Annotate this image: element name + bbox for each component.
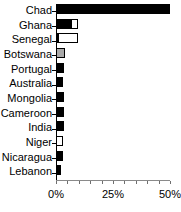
bar-segment: [56, 165, 61, 175]
bar-segment: [56, 136, 63, 146]
category-label-senegal: Senegal: [0, 34, 52, 45]
value-tick: [79, 181, 80, 184]
bar-row: [56, 151, 170, 166]
bar-segment: [56, 121, 64, 131]
value-tick: [170, 181, 171, 184]
value-tick: [159, 181, 160, 184]
category-label-nicaragua: Nicaragua: [0, 152, 52, 163]
bar-segment: [56, 63, 64, 73]
bar-row: [56, 165, 170, 180]
bar-segment: [56, 151, 63, 161]
bar-row: [56, 4, 170, 19]
value-tick: [136, 181, 137, 184]
value-tick: [67, 181, 68, 184]
bar-row: [56, 121, 170, 136]
category-label-india: India: [0, 122, 52, 133]
bar-row: [56, 136, 170, 151]
value-axis-label: 0%: [36, 188, 76, 200]
bar-row: [56, 77, 170, 92]
value-tick: [102, 181, 103, 184]
category-label-ghana: Ghana: [0, 20, 52, 31]
category-label-cameroon: Cameroon: [0, 108, 52, 119]
category-axis-labels: ChadGhanaSenegalBotswanaPortugalAustrali…: [0, 0, 52, 212]
bar-segment: [56, 4, 170, 14]
value-tick: [113, 181, 114, 184]
category-label-australia: Australia: [0, 78, 52, 89]
bar-segment: [56, 77, 63, 87]
value-axis-label: 25%: [93, 188, 133, 200]
bar-segment: [56, 19, 71, 29]
bar-row: [56, 63, 170, 78]
bar-chart: ChadGhanaSenegalBotswanaPortugalAustrali…: [0, 0, 181, 212]
value-tick: [90, 181, 91, 184]
bar-segment: [56, 48, 65, 58]
bar-row: [56, 33, 170, 48]
category-label-niger: Niger: [0, 137, 52, 148]
value-tick: [124, 181, 125, 184]
bar-row: [56, 19, 170, 34]
bar-segment: [58, 33, 77, 43]
bar-segment: [56, 107, 64, 117]
category-label-botswana: Botswana: [0, 49, 52, 60]
bar-row: [56, 107, 170, 122]
value-tick: [56, 181, 57, 184]
category-label-mongolia: Mongolia: [0, 93, 52, 104]
category-label-chad: Chad: [0, 5, 52, 16]
category-label-lebanon: Lebanon: [0, 166, 52, 177]
bar-row: [56, 48, 170, 63]
bar-segment: [71, 19, 78, 29]
bar-segment: [56, 92, 64, 102]
bar-row: [56, 92, 170, 107]
value-tick: [147, 181, 148, 184]
plot-area: [56, 4, 170, 180]
value-axis-label: 50%: [150, 188, 181, 200]
category-label-portugal: Portugal: [0, 64, 52, 75]
